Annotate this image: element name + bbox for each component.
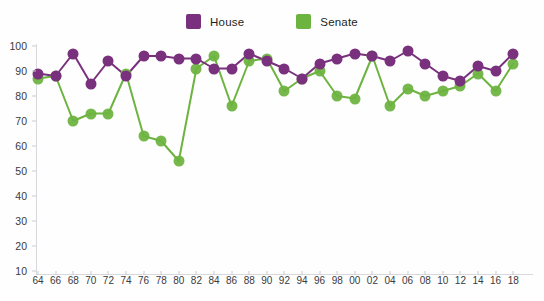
data-point[interactable] (490, 86, 501, 97)
data-point[interactable] (103, 56, 114, 67)
data-point[interactable] (455, 76, 466, 87)
data-point[interactable] (156, 51, 167, 62)
x-axis-tick-label: 64 (32, 275, 43, 286)
data-point[interactable] (261, 56, 272, 67)
y-axis-tick-mark (32, 46, 36, 47)
legend-item-senate[interactable]: Senate (296, 14, 358, 29)
x-axis-tick-label: 78 (156, 275, 167, 286)
x-axis-tick-label: 68 (68, 275, 79, 286)
y-axis-tick-mark (32, 246, 36, 247)
x-axis-tick-label: 88 (244, 275, 255, 286)
legend-item-house[interactable]: House (186, 14, 244, 29)
x-axis-tick-mark (337, 271, 338, 275)
plot-area: 1009080706050403020106466687072747678808… (36, 46, 532, 271)
data-point[interactable] (121, 71, 132, 82)
data-point[interactable] (279, 63, 290, 74)
data-point[interactable] (191, 63, 202, 74)
x-axis-tick-mark (38, 271, 39, 275)
x-axis-tick-label: 98 (332, 275, 343, 286)
data-point[interactable] (349, 48, 360, 59)
x-axis-tick-mark (284, 271, 285, 275)
x-axis-tick-mark (513, 271, 514, 275)
x-axis-tick-mark (55, 271, 56, 275)
data-point[interactable] (437, 71, 448, 82)
chart-legend: House Senate (0, 14, 544, 29)
y-axis-tick-mark (32, 121, 36, 122)
x-axis-tick-mark (266, 271, 267, 275)
data-point[interactable] (508, 48, 519, 59)
data-point[interactable] (385, 101, 396, 112)
data-point[interactable] (437, 86, 448, 97)
x-axis-tick-label: 72 (103, 275, 114, 286)
data-point[interactable] (385, 56, 396, 67)
x-axis-tick-mark (372, 271, 373, 275)
x-axis-tick-label: 74 (120, 275, 131, 286)
x-axis-tick-label: 02 (367, 275, 378, 286)
data-point[interactable] (332, 53, 343, 64)
data-point[interactable] (209, 63, 220, 74)
data-point[interactable] (85, 108, 96, 119)
x-axis-tick-mark (143, 271, 144, 275)
x-axis-tick-label: 66 (50, 275, 61, 286)
x-axis-tick-label: 18 (508, 275, 519, 286)
line-chart: House Senate 100908070605040302010646668… (0, 0, 544, 301)
data-point[interactable] (420, 58, 431, 69)
x-axis-tick-mark (425, 271, 426, 275)
data-point[interactable] (68, 116, 79, 127)
data-point[interactable] (173, 156, 184, 167)
data-point[interactable] (279, 86, 290, 97)
data-point[interactable] (490, 66, 501, 77)
data-point[interactable] (349, 93, 360, 104)
data-point[interactable] (402, 83, 413, 94)
data-point[interactable] (226, 101, 237, 112)
data-point[interactable] (156, 136, 167, 147)
x-axis-tick-label: 96 (314, 275, 325, 286)
x-axis-tick-label: 00 (349, 275, 360, 286)
data-point[interactable] (85, 78, 96, 89)
x-axis-tick-label: 10 (437, 275, 448, 286)
x-axis-tick-mark (161, 271, 162, 275)
legend-label-senate: Senate (320, 16, 358, 28)
x-axis-tick-mark (495, 271, 496, 275)
y-axis-tick-mark (32, 271, 36, 272)
x-axis-tick-label: 84 (208, 275, 219, 286)
x-axis-tick-label: 76 (138, 275, 149, 286)
x-axis-tick-mark (231, 271, 232, 275)
data-point[interactable] (173, 53, 184, 64)
x-axis-tick-mark (178, 271, 179, 275)
legend-label-house: House (210, 16, 244, 28)
data-point[interactable] (103, 108, 114, 119)
x-axis-tick-mark (126, 271, 127, 275)
data-point[interactable] (50, 71, 61, 82)
data-point[interactable] (138, 131, 149, 142)
data-point[interactable] (420, 91, 431, 102)
x-axis-tick-label: 94 (296, 275, 307, 286)
x-axis-tick-mark (108, 271, 109, 275)
data-point[interactable] (508, 58, 519, 69)
data-point[interactable] (226, 63, 237, 74)
x-axis-tick-label: 86 (226, 275, 237, 286)
y-axis-tick-mark (32, 171, 36, 172)
data-point[interactable] (244, 48, 255, 59)
data-point[interactable] (473, 61, 484, 72)
y-axis-tick-mark (32, 96, 36, 97)
x-axis-tick-label: 08 (420, 275, 431, 286)
data-point[interactable] (402, 46, 413, 57)
x-axis-tick-mark (214, 271, 215, 275)
x-axis-tick-label: 12 (455, 275, 466, 286)
x-axis-tick-label: 82 (191, 275, 202, 286)
data-point[interactable] (332, 91, 343, 102)
data-point[interactable] (209, 51, 220, 62)
data-point[interactable] (68, 48, 79, 59)
x-axis-tick-label: 70 (85, 275, 96, 286)
data-point[interactable] (297, 73, 308, 84)
data-point[interactable] (191, 53, 202, 64)
square-swatch-icon (296, 14, 311, 29)
data-point[interactable] (314, 58, 325, 69)
x-axis-tick-mark (302, 271, 303, 275)
x-axis-tick-mark (478, 271, 479, 275)
x-axis-tick-mark (73, 271, 74, 275)
x-axis-tick-mark (460, 271, 461, 275)
data-point[interactable] (138, 51, 149, 62)
data-point[interactable] (367, 51, 378, 62)
